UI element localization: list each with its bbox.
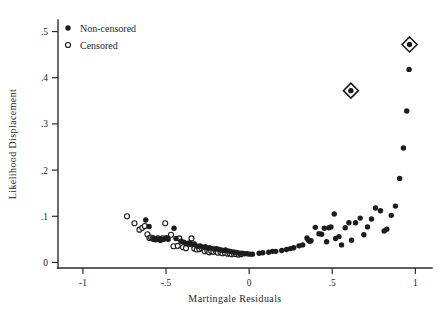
- data-point-non-censored: [336, 234, 341, 239]
- legend-group: Non-censoredCensored: [65, 23, 136, 51]
- highlighted-points-group: [343, 37, 417, 98]
- data-point-non-censored: [166, 237, 171, 242]
- data-points-group: [124, 42, 412, 257]
- data-point-censored: [124, 214, 129, 219]
- y-tick-label-2: .2: [41, 166, 48, 176]
- data-point-non-censored: [357, 215, 362, 220]
- legend-marker-censored: [66, 43, 71, 48]
- y-tick-label-4: .4: [41, 73, 48, 83]
- data-point-non-censored: [171, 226, 176, 231]
- x-tick-label-2: 0: [247, 278, 252, 288]
- data-point-censored: [183, 246, 188, 251]
- data-point-non-censored: [349, 238, 354, 243]
- x-axis-title: Martingale Residuals: [188, 293, 281, 304]
- data-point-non-censored: [260, 250, 265, 255]
- data-point-non-censored: [300, 242, 305, 247]
- legend-label-censored: Censored: [80, 40, 118, 51]
- data-point-non-censored: [346, 220, 351, 225]
- data-point-non-censored: [407, 42, 412, 47]
- data-point-censored: [163, 221, 168, 226]
- data-point-non-censored: [273, 249, 278, 254]
- x-tick-label-0: -1: [79, 278, 87, 288]
- data-point-non-censored: [393, 203, 398, 208]
- data-point-non-censored: [319, 232, 324, 237]
- data-point-censored: [169, 232, 174, 237]
- data-point-non-censored: [406, 67, 411, 72]
- y-tick-label-3: .3: [41, 119, 48, 129]
- data-point-non-censored: [339, 242, 344, 247]
- data-point-non-censored: [324, 239, 329, 244]
- data-point-non-censored: [143, 217, 148, 222]
- data-point-non-censored: [322, 226, 327, 231]
- legend-label-non-censored: Non-censored: [80, 23, 136, 34]
- data-point-non-censored: [404, 108, 409, 113]
- x-tick-label-3: .5: [329, 278, 336, 288]
- x-tick-label-4: 1: [413, 278, 418, 288]
- data-point-non-censored: [250, 251, 255, 256]
- x-tick-label-1: -.5: [161, 278, 172, 288]
- data-point-non-censored: [373, 205, 378, 210]
- scatter-plot-figure: -1-.50.510.1.2.3.4.5 Non-censoredCensore…: [0, 0, 441, 318]
- data-point-non-censored: [397, 176, 402, 181]
- data-point-non-censored: [308, 238, 313, 243]
- data-point-non-censored: [353, 220, 358, 225]
- y-tick-label-0: 0: [43, 258, 48, 268]
- data-point-non-censored: [328, 224, 333, 229]
- axis-labels-group: Martingale ResidualsLikelihood Displacem…: [7, 89, 282, 304]
- data-point-non-censored: [173, 236, 178, 241]
- data-point-non-censored: [291, 245, 296, 250]
- plot-canvas: -1-.50.510.1.2.3.4.5 Non-censoredCensore…: [0, 0, 441, 318]
- axes-group: -1-.50.510.1.2.3.4.5: [41, 20, 432, 288]
- data-point-non-censored: [361, 232, 366, 237]
- data-point-non-censored: [146, 224, 151, 229]
- data-point-non-censored: [389, 213, 394, 218]
- y-axis-title: Likelihood Displacement: [7, 89, 18, 200]
- data-point-non-censored: [279, 248, 284, 253]
- data-point-non-censored: [401, 145, 406, 150]
- data-point-non-censored: [313, 225, 318, 230]
- data-point-censored: [175, 243, 180, 248]
- y-tick-label-5: .5: [41, 27, 48, 37]
- data-point-non-censored: [348, 88, 353, 93]
- data-point-censored: [189, 236, 194, 241]
- legend-marker-non-censored: [65, 25, 70, 30]
- y-tick-label-1: .1: [41, 212, 48, 222]
- data-point-non-censored: [365, 224, 370, 229]
- data-point-non-censored: [378, 208, 383, 213]
- data-point-censored: [132, 221, 137, 226]
- data-point-non-censored: [384, 227, 389, 232]
- data-point-non-censored: [369, 216, 374, 221]
- data-point-non-censored: [332, 211, 337, 216]
- data-point-non-censored: [343, 225, 348, 230]
